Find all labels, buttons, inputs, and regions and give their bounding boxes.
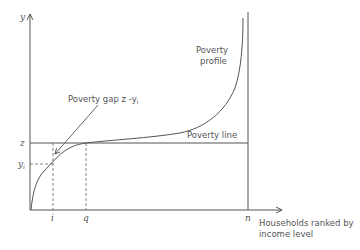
i-tick-label: i — [51, 213, 54, 223]
poverty-line-label: Poverty line — [187, 130, 237, 140]
poverty-profile-diagram: y z yi i q n Poverty profile Poverty lin… — [0, 0, 360, 250]
yi-tick-label: yi — [17, 159, 25, 170]
profile-label-2: profile — [200, 56, 227, 66]
z-tick-label: z — [19, 138, 25, 148]
n-tick-label: n — [245, 213, 251, 223]
x-axis-label-1: Households ranked by — [259, 218, 354, 228]
profile-label-1: Poverty — [196, 45, 228, 55]
gap-pointer — [55, 105, 98, 154]
q-tick-label: q — [83, 213, 89, 223]
poverty-gap-label: Poverty gap z -yi — [68, 94, 139, 105]
x-axis-label-2: income level — [259, 229, 313, 239]
y-axis-label: y — [19, 12, 26, 22]
